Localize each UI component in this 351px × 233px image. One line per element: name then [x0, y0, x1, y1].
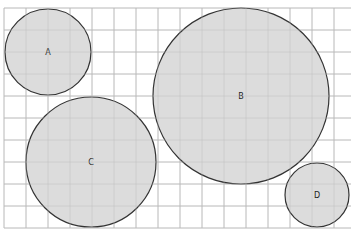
grid-diagram: A B C D	[0, 0, 351, 233]
circle-d: D	[285, 163, 349, 227]
circle-d-label: D	[314, 191, 320, 200]
circles-layer: A B C D	[5, 8, 349, 227]
